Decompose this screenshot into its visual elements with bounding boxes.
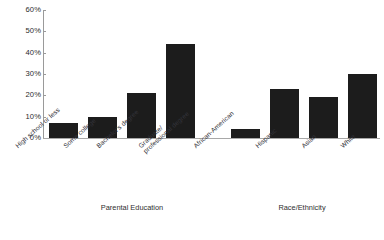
y-tick-mark-60 [43, 10, 46, 11]
y-tick-label-30: 30% [1, 70, 41, 78]
y-tick-label-60: 60% [1, 6, 41, 14]
y-tick-label-40: 40% [1, 49, 41, 57]
x-label-african-american: African-American [192, 110, 235, 150]
bar-white [348, 74, 377, 138]
x-label-white: White [339, 133, 357, 150]
y-tick-mark-40 [43, 53, 46, 54]
y-tick-label-50: 50% [1, 27, 41, 35]
group-title-race-ethnicity: Race/Ethnicity [232, 203, 372, 212]
bar-chart: 0% 10% 20% 30% 40% 50% 60% High school o… [0, 0, 384, 240]
x-axis-baseline [43, 138, 380, 139]
y-tick-mark-50 [43, 31, 46, 32]
y-tick-label-10: 10% [1, 113, 41, 121]
bar-asian [309, 97, 338, 138]
y-tick-mark-20 [43, 95, 46, 96]
y-tick-label-20: 20% [1, 91, 41, 99]
bar-african-american [231, 129, 260, 138]
group-title-parental-education: Parental Education [62, 203, 202, 212]
x-label-asian: Asian [300, 133, 317, 150]
y-tick-mark-30 [43, 74, 46, 75]
